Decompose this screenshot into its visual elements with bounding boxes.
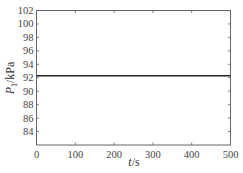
chart: 8486889092949698100102 0100200300400500 …	[0, 0, 243, 173]
y-tick-label: 92	[23, 72, 34, 83]
x-axis-label: t/s	[128, 155, 140, 169]
y-tick-label: 98	[23, 32, 34, 43]
x-tick-label: 0	[34, 149, 39, 160]
y-tick-label: 86	[23, 113, 34, 124]
x-tick-label: 300	[145, 149, 161, 160]
x-tick-label: 100	[67, 149, 83, 160]
y-tick-label: 90	[23, 86, 34, 97]
y-axis-label: P1/kPa	[3, 61, 19, 95]
y-tick-label: 102	[18, 5, 34, 16]
x-tick-label: 500	[223, 149, 239, 160]
y-axis-ticks: 8486889092949698100102	[18, 5, 231, 137]
y-tick-label: 94	[23, 59, 34, 70]
y-tick-label: 96	[23, 45, 34, 56]
y-tick-label: 100	[18, 18, 34, 29]
x-axis-ticks: 0100200300400500	[34, 11, 239, 161]
y-tick-label: 88	[23, 99, 34, 110]
plot-frame	[37, 11, 231, 146]
y-tick-label: 84	[23, 126, 34, 137]
x-tick-label: 200	[106, 149, 122, 160]
x-tick-label: 400	[184, 149, 200, 160]
